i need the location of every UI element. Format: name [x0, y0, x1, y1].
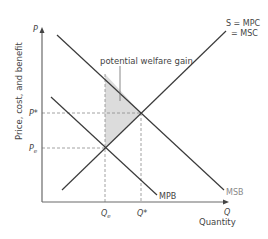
y-axis-symbol: P: [33, 25, 38, 34]
y-axis-arrow-icon: [40, 27, 45, 33]
externality-diagram: potential welfare gain S = MPC = MSC MSB…: [0, 0, 268, 239]
p-star-label: P*: [29, 109, 38, 118]
x-axis-label: Quantity: [199, 217, 236, 227]
x-axis-symbol: Q: [224, 208, 230, 217]
msb-label: MSB: [226, 188, 243, 197]
y-axis-label: Price, cost, and benefit: [14, 42, 24, 140]
supply-label-line1: S = MPC: [226, 19, 261, 28]
q-e-sub: e: [107, 213, 111, 219]
supply-label-line2: = MSC: [231, 29, 258, 38]
mpb-label: MPB: [159, 192, 176, 201]
q-star-label: Q*: [137, 209, 147, 218]
p-e-sub: e: [34, 148, 38, 154]
supply-curve: [62, 31, 226, 190]
welfare-gain-label: potential welfare gain: [100, 56, 193, 66]
x-axis-arrow-icon: [223, 200, 229, 205]
p-e-label: Pe: [29, 144, 38, 154]
q-e-label: Qe: [101, 209, 111, 219]
